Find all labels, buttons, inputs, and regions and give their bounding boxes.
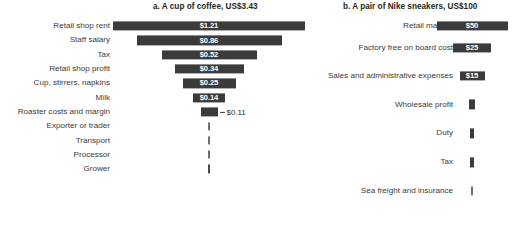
chart-row: Wholesale profit xyxy=(262,90,525,119)
chart-row: Retail shop profit $0.34 xyxy=(0,62,262,76)
bar xyxy=(471,186,473,195)
chart-row: Milk $0.14 xyxy=(0,90,262,104)
chart-row: Sales and administrative expenses $15 xyxy=(262,62,525,91)
bar: $0.25 xyxy=(183,79,236,88)
chart-row: Roaster costs and margin $0.11 xyxy=(0,105,262,119)
panel-b-rows: Retail markup $50 Factory free on board … xyxy=(262,19,525,205)
chart-row: Sea freight and insurance xyxy=(262,176,525,205)
bar xyxy=(469,100,476,110)
bar xyxy=(208,137,209,145)
bar-value: $0.11 xyxy=(227,107,246,116)
bar: $0.52 xyxy=(162,50,257,59)
chart-panel-b: b. A pair of Nike sneakers, US$100 Retai… xyxy=(262,0,525,229)
bar-track xyxy=(262,157,525,166)
chart-row: Tax xyxy=(262,148,525,177)
bar-track xyxy=(262,129,525,138)
chart-row: Transport xyxy=(0,133,262,147)
chart-row: Duty xyxy=(262,119,525,148)
bar-value: $0.34 xyxy=(200,65,219,74)
bar: $0.34 xyxy=(175,64,244,73)
callout-leader-line xyxy=(220,111,225,112)
chart-row: Processor xyxy=(0,148,262,162)
chart-row: Retail shop rent $1.21 xyxy=(0,19,262,33)
bar xyxy=(470,157,475,167)
bar-value: $15 xyxy=(466,72,478,81)
bar-value: $50 xyxy=(466,22,478,31)
bar-track xyxy=(262,186,525,195)
chart-row: Cup, stirrers, napkins $0.25 xyxy=(0,76,262,90)
bar-value: $1.21 xyxy=(200,22,219,31)
chart-row: Retail markup $50 xyxy=(262,19,525,33)
bar: $25 xyxy=(453,43,491,52)
bar-track: $50 xyxy=(262,22,525,31)
bar: $50 xyxy=(437,22,508,31)
chart-row: Tax $0.52 xyxy=(0,48,262,62)
figure-container: a. A cup of coffee, US$3.43 Retail shop … xyxy=(0,0,525,229)
bar-track: $15 xyxy=(262,72,525,81)
chart-row: Staff salary $0.86 xyxy=(0,33,262,47)
bar: $15 xyxy=(460,72,485,81)
bar-value: $0.86 xyxy=(200,36,219,45)
bar xyxy=(470,128,475,138)
chart-row: Grower xyxy=(0,162,262,176)
bar-track: $25 xyxy=(262,43,525,52)
bar: $0.11 xyxy=(201,107,218,116)
bar-track xyxy=(262,100,525,109)
bar-value: $0.25 xyxy=(200,79,219,88)
bar-callout: $0.11 xyxy=(218,107,246,116)
panel-a-rows: Retail shop rent $1.21 Staff salary $0.8… xyxy=(0,19,262,176)
bar: $0.14 xyxy=(193,93,225,102)
bar: $0.86 xyxy=(137,36,282,45)
bar-value: $0.14 xyxy=(200,93,219,102)
chart-row: Factory free on board cost $25 xyxy=(262,33,525,62)
chart-row: Exporter or trader xyxy=(0,119,262,133)
chart-panel-a: a. A cup of coffee, US$3.43 Retail shop … xyxy=(0,0,262,229)
bar-value: $0.52 xyxy=(200,50,219,59)
panel-a-title: a. A cup of coffee, US$3.43 xyxy=(153,2,258,11)
bar xyxy=(208,165,210,174)
panel-b-title: b. A pair of Nike sneakers, US$100 xyxy=(343,2,477,11)
bar-value: $25 xyxy=(466,43,478,52)
bar xyxy=(208,122,209,130)
bar xyxy=(208,151,210,159)
